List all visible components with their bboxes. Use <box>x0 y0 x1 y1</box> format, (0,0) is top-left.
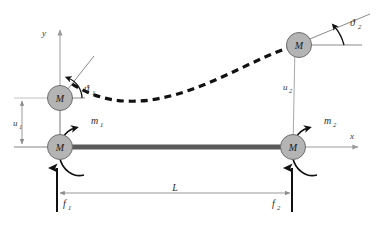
f1-subscript: 1 <box>68 204 71 211</box>
theta-2-symbol: ϑ <box>350 17 356 28</box>
u1-label: u 1 <box>13 118 22 130</box>
theta-1-symbol: ϑ <box>84 83 90 94</box>
theta-2-label: ϑ 2 <box>350 17 362 30</box>
mass-2-undeformed: M <box>281 135 306 160</box>
u2-label: u 2 <box>283 82 293 94</box>
node2-connector-line <box>293 45 295 147</box>
theta-1-label: ϑ 1 <box>84 83 95 96</box>
mass-2-deformed: M <box>287 33 312 58</box>
f2-label: f 2 <box>272 198 281 211</box>
m1-subscript: 1 <box>100 121 103 128</box>
m2-symbol: m <box>324 115 331 126</box>
theta-2-subscript: 2 <box>358 23 362 30</box>
f2-symbol: f <box>272 198 276 209</box>
mass-1-undeformed: M <box>48 135 73 160</box>
f1-symbol: f <box>63 198 67 209</box>
y-axis-label: y <box>41 28 46 38</box>
f2-subscript: 2 <box>277 204 281 211</box>
f1-label: f 1 <box>63 198 71 211</box>
x-axis-label: x <box>349 131 354 141</box>
m1-symbol: m <box>91 115 98 126</box>
m2-subscript: 2 <box>333 121 337 128</box>
length-label: L <box>171 182 178 193</box>
m2-label: m 2 <box>324 115 337 128</box>
deflection-curve <box>72 48 288 101</box>
mass-1-undeformed-label: M <box>55 142 65 153</box>
theta-1-subscript: 1 <box>92 89 95 96</box>
mass-1-deformed-label: M <box>55 93 65 104</box>
u2-subscript: 2 <box>289 87 293 94</box>
u1-subscript: 1 <box>19 123 22 130</box>
u1-symbol: u <box>13 118 18 128</box>
mass-2-undeformed-label: M <box>288 142 298 153</box>
mass-1-deformed: M <box>48 86 73 111</box>
mass-2-deformed-label: M <box>294 40 304 51</box>
beam-element-diagram: M M M M y x ϑ 1 ϑ 2 u 1 u <box>0 0 384 225</box>
diagram-canvas: M M M M y x ϑ 1 ϑ 2 u 1 u <box>0 0 384 225</box>
u2-symbol: u <box>283 82 288 92</box>
m1-label: m 1 <box>91 115 103 128</box>
